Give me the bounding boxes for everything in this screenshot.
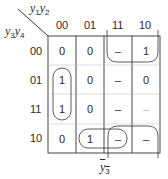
cell-r3-c1: 1	[76, 124, 104, 153]
cell-r1-c0: 1	[48, 65, 76, 94]
cell-r2-c1: 0	[76, 94, 104, 123]
cell-r1-c2: –	[104, 65, 132, 94]
cell-r2-c0: 1	[48, 94, 76, 123]
cell-r2-c2: –	[104, 94, 132, 123]
cell-r0-c0: 0	[48, 36, 76, 65]
cell-r3-c2: –	[104, 124, 132, 153]
cell-r0-c3: 1	[132, 36, 160, 65]
cell-r3-c3: –	[132, 124, 160, 153]
cell-r1-c1: 0	[76, 65, 104, 94]
cell-r0-c1: 0	[76, 36, 104, 65]
annotation-y3-bar: y3	[100, 160, 110, 176]
cell-r1-c3: 0	[132, 65, 160, 94]
cell-r3-c0: 0	[48, 124, 76, 153]
cell-r0-c2: –	[104, 36, 132, 65]
cell-r2-c3: –	[132, 94, 160, 123]
